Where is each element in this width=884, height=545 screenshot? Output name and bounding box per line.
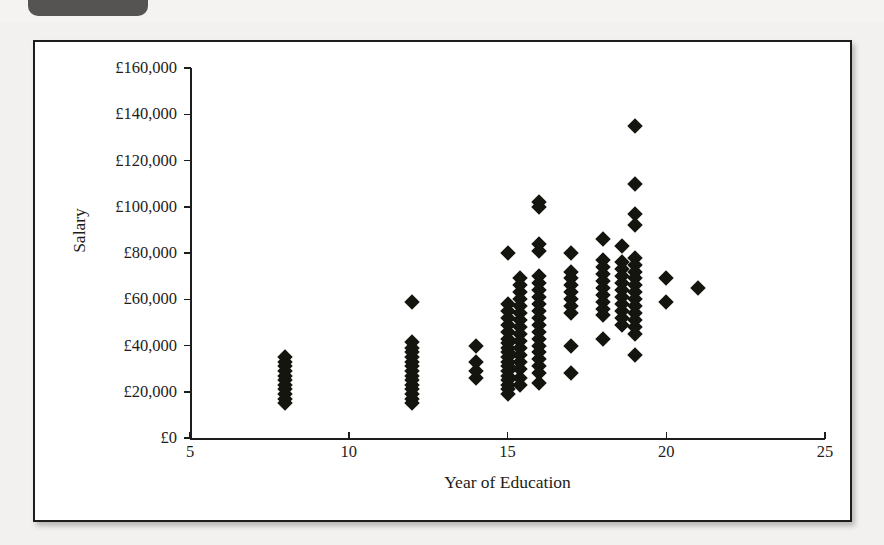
data-point <box>627 176 643 192</box>
data-point <box>690 280 706 296</box>
data-point <box>627 118 643 134</box>
x-axis-tick <box>507 432 509 439</box>
y-axis-tick <box>184 160 191 162</box>
data-point <box>404 294 420 310</box>
data-point <box>595 331 611 347</box>
x-axis-title: Year of Education <box>190 472 825 493</box>
x-axis-tick-label: 10 <box>319 444 379 461</box>
y-axis-tick <box>184 391 191 393</box>
x-axis-tick <box>824 432 826 439</box>
y-axis-tick <box>184 252 191 254</box>
data-point <box>468 338 484 354</box>
data-point <box>658 294 674 310</box>
x-axis-tick <box>666 432 668 439</box>
x-axis-tick <box>189 432 191 439</box>
x-axis-tick-label: 25 <box>795 444 855 461</box>
data-point <box>563 245 579 261</box>
y-axis-tick-label: £140,000 <box>65 106 177 123</box>
x-axis-tick-label: 15 <box>478 444 538 461</box>
y-axis-tick <box>184 206 191 208</box>
data-point <box>614 238 630 254</box>
y-axis-tick <box>184 67 191 69</box>
y-axis-tick-label: £160,000 <box>65 60 177 77</box>
caption-badge <box>28 0 148 16</box>
x-axis-tick-label: 5 <box>160 444 220 461</box>
y-axis-title: Salary <box>69 161 90 301</box>
figure-caption-strip <box>0 0 884 22</box>
y-axis-tick-label: £20,000 <box>65 384 177 401</box>
scatter-plot: £0£20,000£40,000£60,000£80,000£100,000£1… <box>35 42 850 520</box>
data-point <box>531 375 547 391</box>
y-axis-tick-label: £40,000 <box>65 337 177 354</box>
data-point <box>627 217 643 233</box>
data-point <box>595 231 611 247</box>
data-point <box>563 338 579 354</box>
x-axis-tick-label: 20 <box>636 444 696 461</box>
data-point <box>627 347 643 363</box>
x-axis-tick <box>348 432 350 439</box>
y-axis-tick <box>184 114 191 116</box>
data-point <box>500 245 516 261</box>
y-axis-tick <box>184 345 191 347</box>
y-axis-tick <box>184 299 191 301</box>
figure-frame: £0£20,000£40,000£60,000£80,000£100,000£1… <box>33 40 852 522</box>
data-point <box>563 365 579 381</box>
data-point <box>658 271 674 287</box>
